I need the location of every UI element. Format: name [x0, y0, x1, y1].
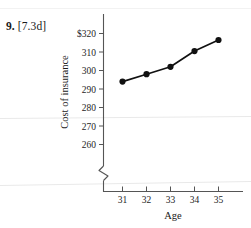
x-axis-title: Age — [164, 210, 182, 221]
y-tick-label-1: 310 — [82, 48, 97, 58]
y-axis-title: Cost of insurance — [59, 55, 70, 129]
line-chart: $320 310 300 290 280 270 260 31 32 33 — [0, 0, 251, 228]
y-tick-label-2: 300 — [82, 66, 97, 76]
x-axis-ticks — [123, 187, 219, 192]
data-line — [123, 40, 219, 82]
y-tick-label-6: 260 — [82, 140, 97, 150]
x-tick-label-1: 32 — [142, 195, 152, 205]
y-tick-label-3: 290 — [82, 85, 97, 95]
y-axis-tick-labels: $320 310 300 290 280 270 260 — [77, 29, 96, 150]
x-tick-label-0: 31 — [118, 195, 128, 205]
page-root: 9.[7.3d] $320 — [0, 0, 251, 228]
data-series — [119, 37, 221, 85]
data-point — [119, 79, 125, 85]
y-tick-label-5: 270 — [82, 122, 97, 132]
x-axis-tick-labels: 31 32 33 34 35 — [118, 195, 224, 205]
x-tick-label-4: 35 — [214, 195, 224, 205]
x-tick-label-3: 34 — [190, 195, 200, 205]
y-axis-break-icon — [99, 166, 108, 181]
data-point — [143, 71, 149, 77]
data-point — [215, 37, 221, 43]
x-tick-label-2: 33 — [166, 195, 176, 205]
y-tick-label-4: 280 — [82, 103, 97, 113]
y-axis-ticks — [99, 34, 104, 145]
y-tick-label-0: $320 — [77, 29, 96, 39]
data-point — [167, 64, 173, 70]
data-point — [191, 48, 197, 54]
